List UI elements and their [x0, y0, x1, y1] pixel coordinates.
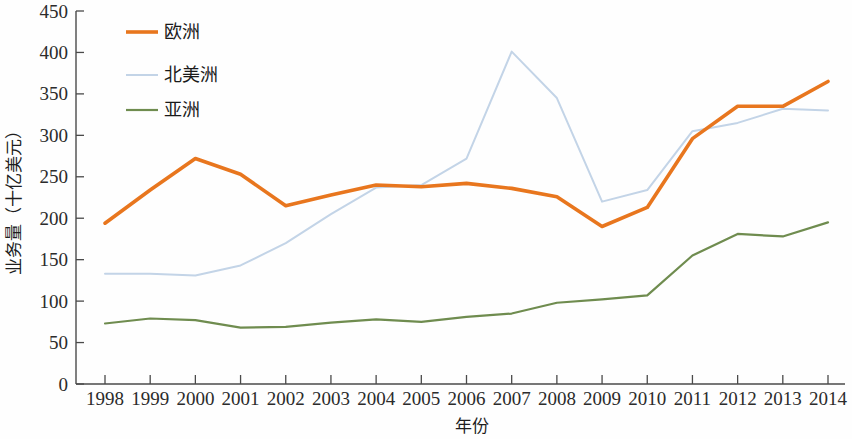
x-tick-label: 2004 [357, 388, 396, 409]
x-tick-label: 2014 [809, 388, 848, 409]
y-axis: 050100150200250300350400450 [40, 1, 85, 395]
y-tick-label: 50 [49, 332, 68, 353]
x-tick-label: 2005 [402, 388, 440, 409]
legend-label-1: 北美洲 [164, 65, 218, 85]
x-tick-label: 1998 [86, 388, 124, 409]
y-axis-title: 业务量（十亿美元） [5, 122, 24, 275]
y-tick-label: 100 [40, 291, 69, 312]
y-tick-label: 150 [40, 249, 69, 270]
line-chart: 050100150200250300350400450 199819992000… [0, 0, 852, 439]
y-tick-label: 250 [40, 166, 69, 187]
x-tick-label: 2011 [674, 388, 711, 409]
x-axis-title: 年份 [455, 417, 489, 436]
y-tick-label: 400 [40, 42, 69, 63]
chart-canvas: 050100150200250300350400450 199819992000… [0, 0, 852, 439]
x-tick-label: 2009 [583, 388, 621, 409]
x-tick-label: 2003 [312, 388, 350, 409]
series-line-2 [105, 222, 828, 327]
series-lines [105, 52, 828, 328]
series-line-0 [105, 81, 828, 226]
y-tick-label: 300 [40, 125, 69, 146]
x-tick-label: 2013 [764, 388, 802, 409]
x-tick-label: 2008 [538, 388, 576, 409]
y-tick-label: 200 [40, 208, 69, 229]
y-tick-label: 0 [59, 374, 69, 395]
y-tick-label: 350 [40, 83, 69, 104]
x-tick-label: 1999 [131, 388, 169, 409]
x-tick-label: 2006 [448, 388, 486, 409]
chart-legend: 欧洲北美洲亚洲 [126, 22, 218, 120]
x-tick-label: 2007 [493, 388, 531, 409]
x-tick-label: 2010 [628, 388, 666, 409]
x-tick-label: 2000 [176, 388, 214, 409]
y-tick-label: 450 [40, 1, 69, 22]
x-tick-label: 2012 [719, 388, 757, 409]
legend-label-0: 欧洲 [164, 22, 200, 42]
x-tick-label: 2002 [267, 388, 305, 409]
x-axis: 1998199920002001200220032004200520062007… [76, 375, 848, 409]
x-tick-label: 2001 [222, 388, 260, 409]
legend-label-2: 亚洲 [164, 100, 200, 120]
